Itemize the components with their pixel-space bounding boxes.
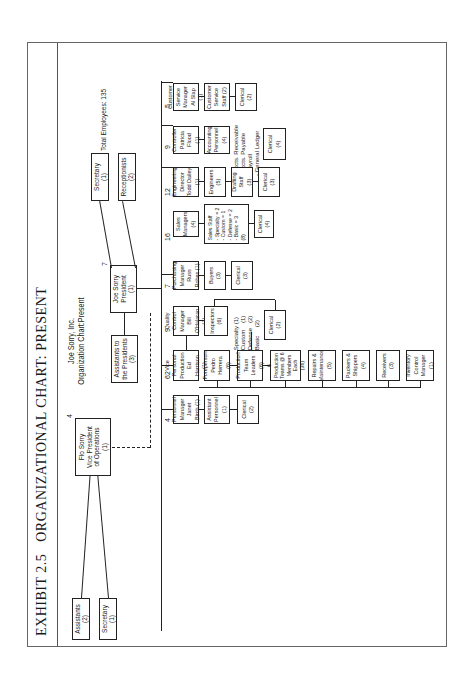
connector [122,201,136,268]
dept-head-sales: Sales Managers (4) [173,211,199,237]
connector [161,409,173,410]
connector [161,82,173,83]
connector [356,381,357,388]
assistants-to-president-box: Assistants to the Presidents (3) [111,335,138,383]
drafting-staff-box: Drafting Staff (3) [231,167,253,197]
connector [420,381,421,388]
dept-count: 16 [164,233,171,241]
buyers-box: Buyers (3) [204,261,226,290]
qc-clerical-box: Clerical (2) [264,310,286,340]
accounting-personnel-box: Accounting Personnel (4) [204,126,230,154]
vp-operations-box: Flo Sorry Vice President of Operations (… [75,418,111,476]
dashed-connector [150,313,151,448]
connector [97,475,109,598]
vp-operations-count: 4 [66,414,73,418]
connector [217,381,218,388]
connector [226,275,231,276]
dept-count: 9 [164,145,171,149]
vp-assistants-box: Assistants (2) [72,598,90,640]
inventory-control-manager-box: Inventory Control Manager (1) [406,350,434,381]
connector [226,181,231,182]
connector [161,125,173,126]
connector [199,96,204,97]
controller-clerical-box: Clerical (4) [263,128,286,160]
exhibit-title-text: ORGANIZATIONAL CHART: PRESENT [34,287,49,542]
connector [161,274,173,275]
dept-head-customer-service: Customer Service Manager Al Slap (1) [173,83,199,111]
assistant-personnel-box: Assistant Personnel (1) [204,395,230,424]
connector [199,320,204,321]
exhibit-frame: EXHIBIT 2.5ORGANIZATIONAL CHART: PRESENT… [27,42,447,647]
dept-count: 9 [164,328,171,332]
total-employees: Total Employees: 135 [100,89,107,151]
receivers-box: Receivers (3) [376,350,400,381]
customer-service-staff-box: Customer Service Staff (2) [204,83,230,111]
connector [322,381,323,388]
dept-count: 12 [164,188,171,196]
repairs-maintenance-box: Repairs & Maintenance (5) [308,350,336,381]
connector [124,313,125,335]
inspectors-box: Inspectors (6) [204,306,228,336]
connector [199,139,204,140]
connector [214,299,275,300]
receptionists-box: Receptionists (2) [118,153,136,201]
president-count: 7 [101,262,108,266]
sales-clerical-box: Clerical (4) [254,210,274,238]
exhibit-number: EXHIBIT 2.5 [34,554,49,636]
connector [99,201,112,268]
company-name: Joe Sorry, Inc. [66,289,76,393]
connector [137,288,161,289]
connector [285,381,286,388]
dept-count: 5 [164,104,171,108]
connector [249,223,254,224]
chart-subtitle: Organization Chart:Present [76,289,86,393]
exhibit-title: EXHIBIT 2.5ORGANIZATIONAL CHART: PRESENT [34,287,50,636]
dept-head-engineering: Engineering Director Todd Dailey (1) [173,167,199,197]
sales-staff-box: Sales Staff - Specialty = 2 - Custom = 1… [204,204,249,244]
secretary-box: Secretary (1) [91,153,109,201]
connector [253,181,258,182]
connector [263,365,270,366]
president-box: Joe Sorry President (1) [110,265,137,313]
customer-service-clerical-box: Clerical (2) [235,83,257,111]
dept-head-purchasing: Purchasing Manager Russ Rohes (1) [173,261,199,290]
connector [199,181,204,182]
engineers-box: Engineers (5) [204,167,226,197]
dept-head-controller: Controller Patricia Flood (1) [173,126,199,154]
connector [230,365,237,366]
dashed-connector [112,447,150,448]
connector [161,365,173,366]
connector [161,167,173,168]
dept-head-personnel: Personnel Manager Janet Birch (1) [173,395,199,424]
connector [214,300,215,306]
connector [199,409,204,410]
dept-count: 7 [164,284,171,288]
personnel-clerical-box: Clerical (2) [237,395,259,424]
engineering-clerical-box: Clerical (3) [258,167,280,197]
dept-head-quality-control: Quality Control Manager Bill O'Halaran (… [173,306,199,336]
connector [250,381,251,388]
inspector-specialties-note: - Specialty (1) - Custom (1) - Defense (… [233,316,261,354]
foreperson-box: Foreperson Pedro Herrera (6) [204,350,230,381]
chart-title: Joe Sorry, Inc. Organization Chart:Prese… [66,289,86,393]
vp-secretary-box: Secretary (1) [99,598,117,640]
connector [388,381,389,388]
production-teams-box: 6 Production Teams @ 6 Members Each (36) [270,350,301,381]
packers-shippers-box: Packers & Shippers (4) [342,350,370,381]
exhibit-title-band: EXHIBIT 2.5ORGANIZATIONAL CHART: PRESENT [28,43,58,646]
connector [230,409,237,410]
connector [81,475,91,598]
dept-count: 62 [164,371,171,379]
connector [275,300,276,310]
dept-head-vp-production: Vice Personal Production Ed Harrison (1) [173,350,199,381]
production-team-leaders-box: Production Team Leaders (6) [237,350,263,381]
arrow-connector [251,332,252,350]
main-bus-line [161,81,162,631]
dept-count: 4 [164,418,171,422]
purchasing-clerical-box: Clerical (3) [231,261,253,290]
connector [186,336,187,350]
connector [199,275,204,276]
connector [199,223,204,224]
connector [230,96,235,97]
